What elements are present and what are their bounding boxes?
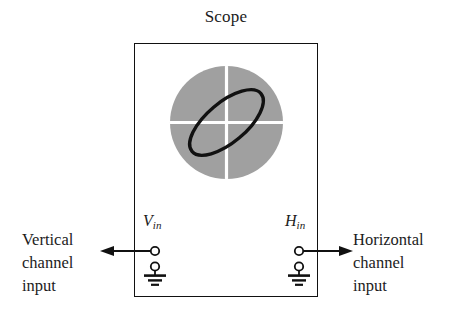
arrow-left-icon bbox=[100, 246, 114, 256]
vertical-input-terminal-label: Vin bbox=[143, 212, 162, 234]
vertical-annotation-line-1: Vertical bbox=[22, 228, 73, 251]
vertical-annotation-line-3: input bbox=[22, 274, 73, 297]
horizontal-channel-input-annotation: Horizontal channel input bbox=[353, 228, 424, 297]
arrow-right-icon bbox=[339, 246, 353, 256]
crt-screen bbox=[170, 66, 283, 179]
horizontal-annotation-line-1: Horizontal bbox=[353, 228, 424, 251]
hin-symbol: H bbox=[285, 212, 297, 229]
vin-subscript: in bbox=[153, 219, 162, 231]
hin-subscript: in bbox=[297, 219, 306, 231]
horizontal-annotation-line-2: channel bbox=[353, 251, 424, 274]
vertical-channel-input-annotation: Vertical channel input bbox=[22, 228, 73, 297]
page-title: Scope bbox=[134, 7, 318, 27]
scope-diagram: Scope Vin Hin Vertical bbox=[0, 0, 469, 319]
horizontal-input-terminal-label: Hin bbox=[285, 212, 306, 234]
vin-symbol: V bbox=[143, 212, 153, 229]
crt-svg bbox=[170, 66, 283, 179]
horizontal-annotation-line-3: input bbox=[353, 274, 424, 297]
vertical-annotation-line-2: channel bbox=[22, 251, 73, 274]
